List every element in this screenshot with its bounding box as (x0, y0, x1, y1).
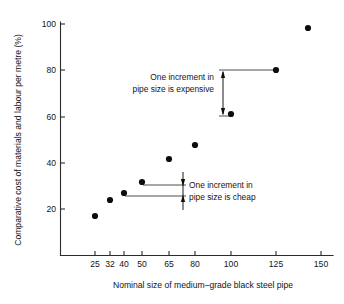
annotation-cheap-line2: pipe size is cheap (189, 192, 256, 202)
y-tick-label-60: 60 (46, 112, 56, 122)
annotation-cheap: One increment in pipe size is cheap (125, 172, 256, 210)
scatter-plot-svg: 100 80 60 40 20 25 32 40 50 65 80 100 12… (0, 0, 344, 304)
x-tick-label-80: 80 (190, 259, 200, 269)
y-tick-label-40: 40 (46, 158, 56, 168)
y-tick-label-80: 80 (46, 65, 56, 75)
axes-group (61, 22, 334, 256)
data-point[interactable] (192, 142, 198, 148)
data-point[interactable] (166, 156, 172, 162)
data-point[interactable] (139, 179, 145, 185)
x-tick-label-150: 150 (314, 259, 329, 269)
x-tick-label-50: 50 (137, 259, 147, 269)
data-point[interactable] (107, 197, 113, 203)
x-axis-title: Nominal size of medium–grade black steel… (113, 280, 293, 290)
annotation-expensive-line2: pipe size is expensive (133, 84, 215, 94)
x-tick-label-32: 32 (105, 259, 115, 269)
annotation-cheap-line1: One increment in (189, 180, 253, 190)
chart-figure: 100 80 60 40 20 25 32 40 50 65 80 100 12… (0, 0, 344, 304)
x-tick-label-100: 100 (224, 259, 239, 269)
y-axis-title: Comparative cost of materials and labour… (13, 34, 23, 246)
annotation-expensive-arrowhead-up (221, 71, 225, 79)
annotation-expensive-arrowhead-down (221, 108, 225, 116)
y-tick-label-100: 100 (42, 19, 57, 29)
annotation-expensive-line1: One increment in (150, 72, 214, 82)
x-tick-label-65: 65 (164, 259, 174, 269)
annotation-expensive: One increment in pipe size is expensive (133, 70, 273, 116)
x-axis-ticks: 25 32 40 50 65 80 100 125 150 (90, 251, 328, 269)
data-point[interactable] (92, 213, 98, 219)
data-point[interactable] (273, 67, 279, 73)
y-axis-ticks: 100 80 60 40 20 (42, 19, 65, 214)
data-point[interactable] (121, 190, 127, 196)
x-tick-label-40: 40 (119, 259, 129, 269)
data-point[interactable] (305, 25, 311, 31)
x-tick-label-125: 125 (269, 259, 284, 269)
data-point[interactable] (228, 111, 234, 117)
x-tick-label-25: 25 (90, 259, 100, 269)
y-tick-label-20: 20 (46, 204, 56, 214)
